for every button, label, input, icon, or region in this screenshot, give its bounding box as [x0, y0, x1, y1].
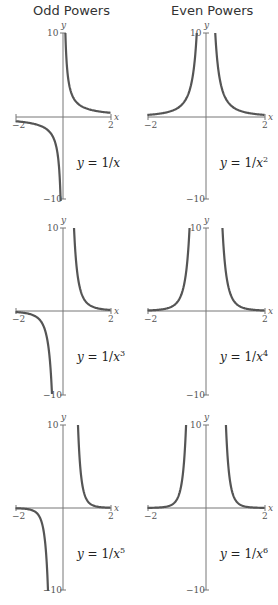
- x-tick-label: 2: [262, 314, 268, 324]
- y-tick-label: 10: [47, 28, 59, 38]
- x-tick-label: −2: [144, 511, 157, 521]
- x-axis-label: x: [268, 306, 273, 316]
- x-tick-label: 2: [262, 511, 268, 521]
- y-tick-label: −10: [186, 585, 205, 595]
- equation-label: y = 1/x3: [76, 349, 125, 364]
- y-axis-label: y: [203, 20, 210, 30]
- curve-left-branch: [148, 33, 197, 115]
- x-axis-label: x: [268, 112, 273, 122]
- y-tick-label: 10: [190, 420, 202, 430]
- y-tick-label: 10: [190, 223, 202, 233]
- y-axis-label: y: [203, 412, 210, 422]
- curve-right-branch: [215, 33, 264, 115]
- x-axis-label: x: [268, 503, 273, 513]
- y-tick-label: −10: [43, 585, 62, 595]
- power-function-plots: −2210−10yxy = 1/x−2210−10yxy = 1/x2−2210…: [0, 0, 278, 605]
- y-axis-label: y: [60, 20, 67, 30]
- equation-label: y = 1/x: [76, 156, 120, 170]
- x-tick-label: −2: [144, 314, 157, 324]
- y-tick-label: −10: [186, 194, 205, 204]
- y-tick-label: −10: [186, 390, 205, 400]
- curve-right-branch: [74, 228, 110, 310]
- x-axis-label: x: [114, 503, 119, 513]
- y-tick-label: 10: [47, 223, 59, 233]
- curve-right-branch: [65, 33, 110, 113]
- x-tick-label: −2: [12, 511, 25, 521]
- equation-label: y = 1/x4: [219, 349, 268, 364]
- curve-left-branch: [148, 425, 187, 508]
- x-tick-label: 2: [108, 511, 114, 521]
- curve-right-branch: [222, 228, 264, 310]
- y-tick-label: 10: [47, 420, 59, 430]
- x-tick-label: −2: [12, 314, 25, 324]
- y-axis-label: y: [60, 412, 67, 422]
- equation-label: y = 1/x5: [76, 546, 125, 561]
- curve-left-branch: [16, 312, 52, 394]
- curve-right-branch: [78, 425, 111, 508]
- curve-left-branch: [16, 121, 61, 201]
- curve-right-branch: [226, 425, 265, 508]
- x-tick-label: −2: [144, 120, 157, 130]
- x-tick-label: 2: [108, 120, 114, 130]
- y-axis-label: y: [60, 215, 67, 225]
- equation-label: y = 1/x6: [219, 546, 268, 561]
- curve-left-branch: [148, 228, 190, 310]
- x-tick-label: 2: [108, 314, 114, 324]
- x-tick-label: 2: [262, 120, 268, 130]
- x-axis-label: x: [114, 306, 119, 316]
- y-axis-label: y: [203, 215, 210, 225]
- x-axis-label: x: [114, 112, 119, 122]
- equation-label: y = 1/x2: [219, 155, 268, 170]
